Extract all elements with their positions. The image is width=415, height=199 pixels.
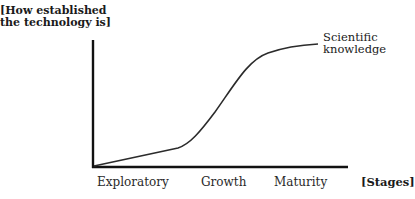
x-tick-exploratory: Exploratory <box>97 175 169 189</box>
scientific-knowledge-curve <box>94 44 318 166</box>
y-axis-label-line-2: the technology is] <box>0 16 111 29</box>
y-axis-label: [How established the technology is] <box>0 5 111 29</box>
x-axis-label: [Stages] <box>361 175 415 189</box>
series-label: Scientific knowledge <box>323 31 386 55</box>
x-tick-maturity: Maturity <box>274 175 327 189</box>
series-label-line-2: knowledge <box>323 42 386 56</box>
x-tick-growth: Growth <box>201 175 246 189</box>
